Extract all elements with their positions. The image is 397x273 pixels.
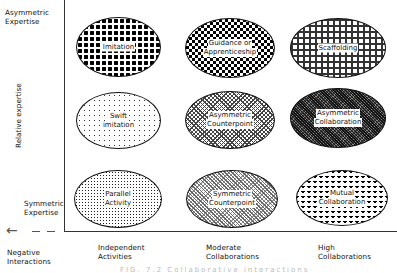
x-negative-label: Negative Interactions: [7, 248, 51, 266]
cell-label-line2: Apprenticeship: [203, 48, 257, 57]
x-category-line2: Collaborations: [318, 252, 371, 261]
y-axis-title: Relative expertise: [14, 83, 23, 148]
cell-label-line1: Swift: [109, 112, 128, 121]
x-category-line1: High: [318, 243, 371, 252]
cell-scaffolding: Scaffolding: [290, 18, 386, 78]
x-category-line2: Activities: [98, 252, 145, 261]
y-top-label-line2: Expertise: [5, 17, 49, 26]
cell-label-line2: Collaboration: [318, 198, 367, 207]
y-top-label-line1: Asymmetric: [5, 8, 49, 17]
cell-symmetric-counterpoint: Symmetric Counterpoint: [186, 170, 278, 228]
cell-guidance-apprenticeship: Guidance or Apprenticeship: [185, 18, 275, 78]
x-negative-label-line2: Interactions: [7, 257, 51, 266]
cell-asymmetric-counterpoint: Asymmetric Counterpoint: [185, 91, 275, 149]
cell-label-line2: Activity: [104, 199, 132, 208]
y-axis-line: [64, 0, 65, 232]
x-negative-label-line1: Negative: [7, 248, 51, 257]
negative-dash-2: [47, 231, 55, 232]
cell-label-line2: Collaboration: [314, 118, 363, 127]
x-category-line2: Collaborations: [206, 252, 259, 261]
cell-label-line1: Asymmetric: [208, 111, 252, 120]
y-bottom-label: Symmetric Expertise: [24, 199, 64, 217]
x-category-line1: Independent: [98, 243, 145, 252]
cell-mutual-collaboration: Mutual Collaboration: [296, 170, 388, 226]
cell-label: Scaffolding: [318, 44, 359, 53]
x-category-independent: Independent Activities: [98, 243, 145, 261]
y-bottom-label-line2: Expertise: [24, 208, 64, 217]
cell-imitation: Imitation: [76, 17, 161, 77]
cell-label-line2: Counterpoint: [206, 120, 254, 129]
cell-label-line2: imitation: [102, 121, 135, 130]
cell-label-line1: Mutual: [329, 189, 355, 198]
cell-label-line1: Guidance or: [208, 39, 253, 48]
cell-label-line1: Symmetric: [212, 190, 252, 199]
y-bottom-label-line1: Symmetric: [24, 199, 64, 208]
y-top-label: Asymmetric Expertise: [5, 8, 49, 26]
cell-label-line2: Counterpoint: [208, 199, 256, 208]
cell-label-line1: Parallel: [104, 190, 132, 199]
cell-parallel-activity: Parallel Activity: [74, 170, 162, 228]
x-category-high: High Collaborations: [318, 243, 371, 261]
cell-swift-imitation: Swift imitation: [76, 92, 161, 149]
cell-label: Imitation: [102, 43, 135, 52]
cell-asymmetric-collaboration: Asymmetric Collaboration: [290, 88, 386, 148]
left-arrow-icon: ←: [6, 223, 18, 237]
x-category-moderate: Moderate Collaborations: [206, 243, 259, 261]
figure-caption: FIG. 7.2 Collaborative interactions: [120, 266, 309, 273]
negative-dash-1: [32, 231, 40, 232]
cell-label-line1: Asymmetric: [316, 109, 360, 118]
x-axis-line: [64, 231, 397, 232]
x-category-line1: Moderate: [206, 243, 259, 252]
